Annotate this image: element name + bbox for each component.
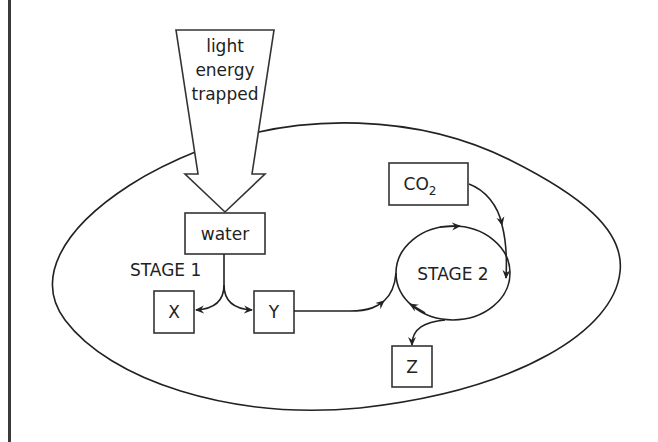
co2-arrow-1 [469,184,502,225]
water-to-y-arrow [224,285,252,310]
y-to-stage2-join [384,273,396,301]
stage-1-label: STAGE 1 [130,260,201,280]
x-label: X [168,302,180,322]
stage-2-label: STAGE 2 [417,264,488,284]
y-label: Y [268,302,280,322]
photosynthesis-diagram: light energy trapped water STAGE 1 X Y S… [0,0,658,442]
z-label: Z [406,357,418,377]
y-to-stage2-arrow [294,301,384,311]
light-label-line-3: trapped [192,84,259,104]
cycle-arrow-bottom [410,304,425,313]
light-label-line-1: light [206,36,244,56]
cycle-arrow-top [440,226,460,227]
light-label-line-2: energy [195,60,254,80]
light-energy-arrow [176,30,274,212]
stage2-to-z-arrow [412,320,445,345]
water-label: water [201,224,249,244]
